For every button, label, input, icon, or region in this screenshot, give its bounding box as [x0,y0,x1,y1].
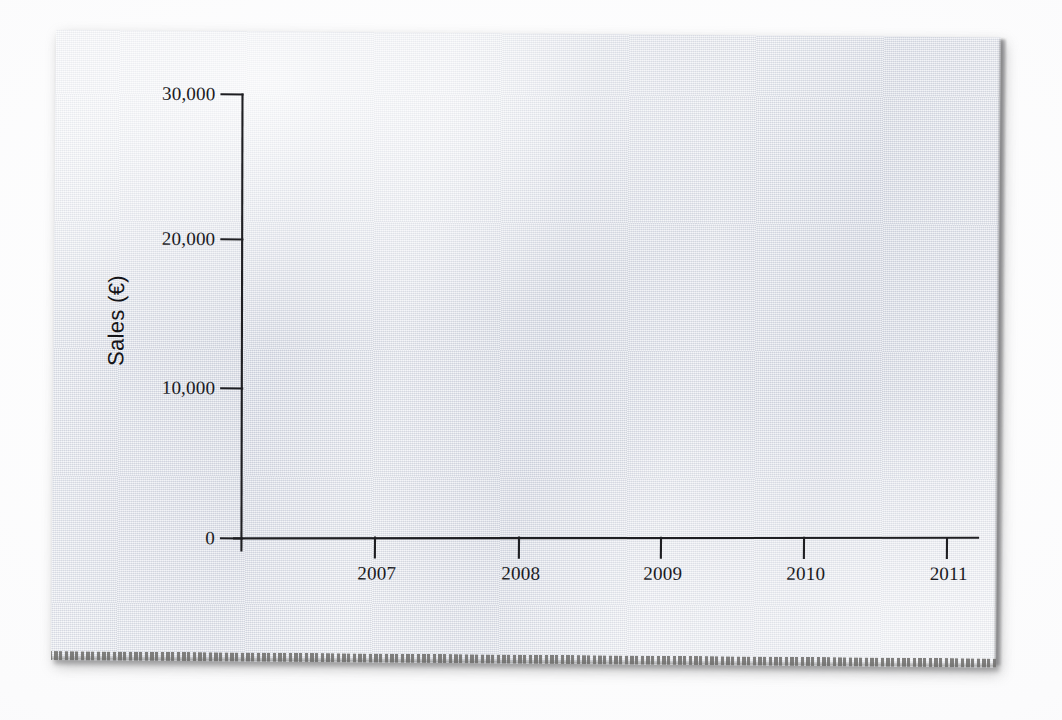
x-tick-label-2008: 2008 [481,562,561,585]
y-axis-line [239,94,245,550]
x-tick-label-2007: 2007 [337,562,417,585]
x-tick-label-2009: 2009 [623,562,703,585]
paper-sheet: Sales (€) 30,000 20,000 10,000 0 2007 20… [51,30,1001,667]
y-tick-label-30000: 30,000 [121,83,215,106]
y-axis-title: Sales (€) [103,250,130,390]
paper-surface: Sales (€) 30,000 20,000 10,000 0 2007 20… [51,30,1001,667]
x-tick-label-2010: 2010 [766,563,846,586]
x-tick-label-2011: 2011 [909,563,989,586]
y-tick-label-10000: 10,000 [121,377,215,400]
screenshot-root: Sales (€) 30,000 20,000 10,000 0 2007 20… [0,0,1062,720]
x-axis-line [234,532,978,544]
y-tick-label-20000: 20,000 [121,228,215,251]
y-tick-label-0: 0 [121,527,215,550]
